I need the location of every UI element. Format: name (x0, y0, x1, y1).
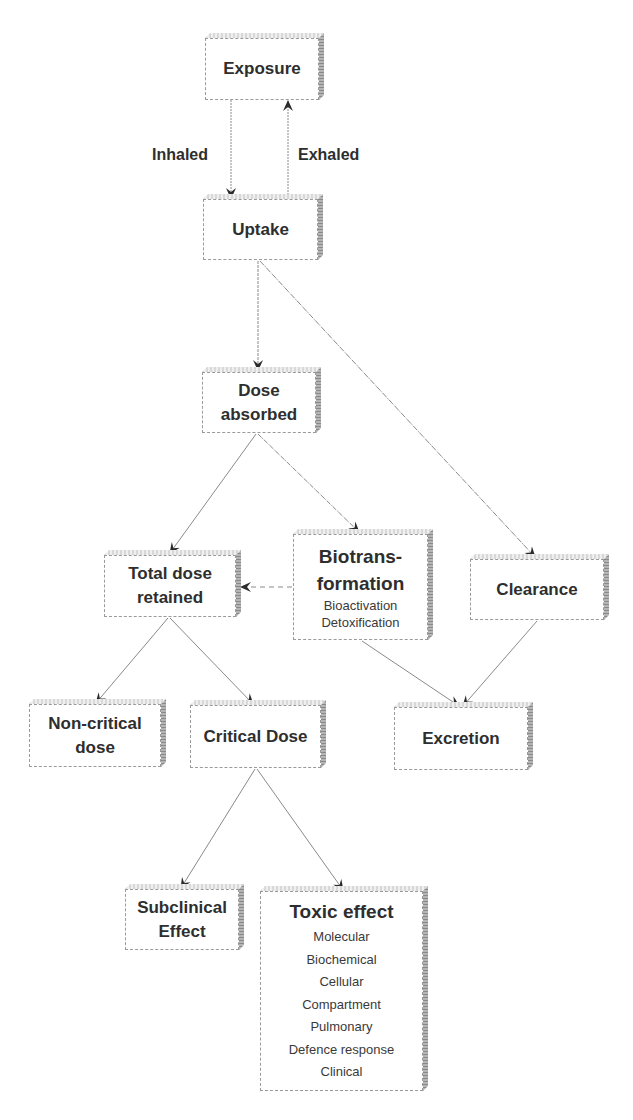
node-title: Toxic effect (289, 898, 393, 925)
box-front: Non-critical dose (29, 704, 161, 767)
node-biotransformation: Biotrans- formation Bioactivation Detoxi… (293, 534, 428, 640)
node-title: Exposure (223, 57, 300, 81)
exposure-dose-effect-diagram: Inhaled Exhaled Exposure Uptake Dose abs… (0, 0, 633, 1120)
box-front: Total dose retained (104, 555, 236, 617)
box-side-face (316, 367, 321, 433)
edge-total-dose-non-critical (96, 618, 168, 703)
node-item: Biochemical (306, 949, 376, 972)
box-side-face (239, 884, 244, 950)
node-item: Molecular (313, 926, 369, 949)
node-item: Bioactivation (324, 597, 398, 614)
node-non-critical-dose: Non-critical dose (29, 704, 161, 767)
box-side-face (318, 194, 323, 260)
node-title-line1: Biotrans- (319, 543, 402, 570)
node-subclinical-effect: Subclinical Effect (125, 889, 239, 950)
box-side-face (319, 33, 324, 100)
node-title-line2: absorbed (221, 403, 298, 427)
node-toxic-effect: Toxic effect Molecular Biochemical Cellu… (260, 891, 423, 1091)
node-title-line2: dose (75, 736, 115, 760)
edge-critical-toxic (257, 769, 343, 890)
edge-label-inhaled: Inhaled (152, 146, 208, 164)
node-uptake: Uptake (203, 199, 318, 260)
box-front: Biotrans- formation Bioactivation Detoxi… (293, 534, 428, 640)
node-title: Uptake (232, 218, 289, 242)
node-title-line2: retained (137, 586, 203, 610)
box-side-face (604, 554, 609, 620)
node-dose-absorbed: Dose absorbed (202, 372, 316, 433)
node-item: Pulmonary (310, 1016, 372, 1039)
edge-label-exhaled: Exhaled (298, 146, 359, 164)
box-side-face (423, 886, 428, 1091)
node-title-line1: Total dose (128, 562, 212, 586)
edge-total-dose-critical (170, 618, 253, 704)
edge-critical-subclinical (181, 769, 255, 888)
node-critical-dose: Critical Dose (190, 705, 321, 768)
edge-dose-absorbed-total-dose (170, 434, 256, 553)
box-side-face (236, 550, 241, 617)
node-title: Critical Dose (204, 725, 308, 749)
edge-dose-absorbed-biotransformation (258, 434, 359, 532)
box-front: Critical Dose (190, 705, 321, 768)
box-front: Dose absorbed (202, 372, 316, 433)
node-title: Clearance (496, 578, 577, 602)
box-front: Toxic effect Molecular Biochemical Cellu… (260, 891, 423, 1091)
box-front: Uptake (203, 199, 318, 260)
node-title-line2: formation (317, 570, 405, 597)
node-title-line1: Non-critical (48, 712, 142, 736)
edge-biotransformation-excretion (362, 641, 459, 706)
node-item: Detoxification (321, 614, 399, 631)
node-item: Cellular (319, 971, 363, 994)
box-side-face (528, 702, 533, 770)
node-excretion: Excretion (394, 707, 528, 770)
box-side-face (161, 699, 166, 767)
box-front: Clearance (470, 559, 604, 620)
box-front: Subclinical Effect (125, 889, 239, 950)
box-front: Exposure (205, 38, 319, 100)
node-title-line2: Effect (158, 920, 205, 944)
node-total-dose-retained: Total dose retained (104, 555, 236, 617)
node-item: Clinical (321, 1061, 363, 1084)
node-clearance: Clearance (470, 559, 604, 620)
node-title-line1: Dose (238, 379, 280, 403)
node-item: Defence response (289, 1039, 395, 1062)
node-title: Excretion (422, 727, 499, 751)
node-item: Compartment (302, 994, 381, 1017)
edge-clearance-excretion (463, 621, 537, 706)
box-side-face (428, 529, 433, 640)
node-exposure: Exposure (205, 38, 319, 100)
box-side-face (321, 700, 326, 768)
box-front: Excretion (394, 707, 528, 770)
node-title-line1: Subclinical (137, 896, 227, 920)
